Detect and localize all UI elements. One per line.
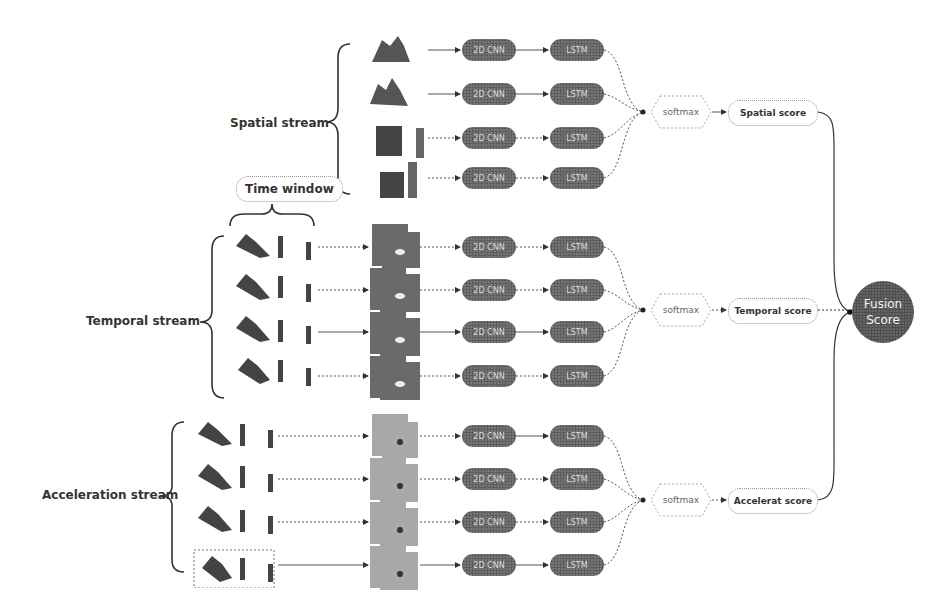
spatial-lstm-3: LSTM (550, 127, 604, 149)
temporal-stacked-frames (230, 228, 320, 398)
spatial-cnn-4: 2D CNN (462, 167, 516, 189)
temporal-lstm-3: LSTM (550, 321, 604, 343)
temporal-softmax-text: softmax (663, 305, 699, 315)
spatial-lstm-4: LSTM (550, 167, 604, 189)
acceleration-cnn-3: 2D CNN (462, 511, 516, 533)
acceleration-cnn-2: 2D CNN (462, 468, 516, 490)
spatial-stream-label: Spatial stream (230, 116, 329, 130)
fusion-line1: Fusion (864, 296, 902, 312)
acceleration-softmax: softmax (650, 483, 712, 517)
spatial-lstm-1: LSTM (550, 39, 604, 61)
fusion-score-node: Fusion Score (852, 281, 914, 343)
acceleration-lstm-4: LSTM (550, 554, 604, 576)
acceleration-lstm-1: LSTM (550, 425, 604, 447)
acceleration-maps (370, 414, 422, 594)
spatial-softmax-text: softmax (663, 107, 699, 117)
acceleration-stream-label: Acceleration stream (42, 488, 178, 502)
time-window-label: Time window (236, 176, 343, 202)
spatial-score: Spatial score (728, 100, 818, 126)
temporal-flow-maps (370, 224, 422, 404)
temporal-cnn-1: 2D CNN (462, 236, 516, 258)
temporal-lstm-2: LSTM (550, 279, 604, 301)
spatial-cnn-1: 2D CNN (462, 39, 516, 61)
acceleration-lstm-2: LSTM (550, 468, 604, 490)
temporal-cnn-4: 2D CNN (462, 365, 516, 387)
acceleration-cnn-1: 2D CNN (462, 425, 516, 447)
acceleration-lstm-3: LSTM (550, 511, 604, 533)
spatial-lstm-2: LSTM (550, 83, 604, 105)
acceleration-score: Accelerat score (728, 488, 818, 514)
spatial-cnn-3: 2D CNN (462, 127, 516, 149)
temporal-lstm-1: LSTM (550, 236, 604, 258)
acceleration-softmax-text: softmax (663, 495, 699, 505)
acceleration-stacked-frames (192, 418, 282, 588)
fusion-line2: Score (866, 312, 900, 328)
spatial-input-frames (364, 32, 430, 202)
temporal-softmax: softmax (650, 293, 712, 327)
architecture-diagram: Spatial stream Temporal stream Accelerat… (0, 0, 946, 615)
spatial-cnn-2: 2D CNN (462, 83, 516, 105)
spatial-softmax: softmax (650, 95, 712, 129)
acceleration-cnn-4: 2D CNN (462, 554, 516, 576)
temporal-lstm-4: LSTM (550, 365, 604, 387)
temporal-cnn-2: 2D CNN (462, 279, 516, 301)
temporal-score: Temporal score (728, 298, 818, 324)
temporal-stream-label: Temporal stream (86, 314, 200, 328)
temporal-cnn-3: 2D CNN (462, 321, 516, 343)
